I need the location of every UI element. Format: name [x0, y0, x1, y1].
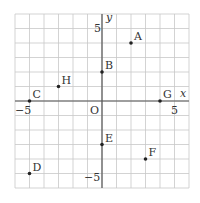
- y-tick-neg5: −5: [84, 171, 100, 184]
- y-tick-5: 5: [94, 22, 101, 35]
- x-tick-neg5: −5: [15, 104, 31, 117]
- origin-label: O: [90, 104, 99, 117]
- point-marker: [158, 99, 162, 103]
- point-label: E: [105, 132, 113, 145]
- point-marker: [57, 85, 61, 89]
- x-tick-5: 5: [171, 104, 178, 117]
- x-axis-label: x: [180, 87, 187, 100]
- point-marker: [100, 143, 104, 147]
- point-label: B: [105, 59, 113, 72]
- point-marker: [28, 172, 32, 176]
- point-label: G: [163, 88, 172, 101]
- point-marker: [28, 99, 32, 103]
- y-axis-label: y: [105, 11, 113, 24]
- point-label: C: [33, 88, 41, 101]
- point-marker: [144, 157, 148, 161]
- point-marker: [100, 70, 104, 74]
- point-label: D: [33, 161, 42, 174]
- coordinate-plane: x y O −5 5 5 −5 ABCDEFGH: [0, 0, 200, 203]
- point-label: F: [149, 146, 157, 159]
- point-label: A: [133, 30, 143, 43]
- point-marker: [129, 41, 133, 45]
- point-label: H: [62, 74, 72, 87]
- points: ABCDEFGH: [28, 30, 172, 175]
